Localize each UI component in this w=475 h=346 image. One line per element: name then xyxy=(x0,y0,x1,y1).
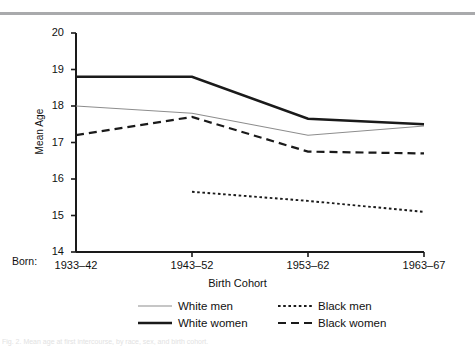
figure-caption: Fig. 2. Mean age at first intercourse, b… xyxy=(2,337,473,346)
y-tick-label: 18 xyxy=(42,100,64,111)
legend-swatch-icon xyxy=(278,317,312,329)
legend-swatch-icon xyxy=(138,300,172,312)
legend-swatch-icon xyxy=(138,317,172,329)
x-tick-label: 1953–62 xyxy=(287,260,330,271)
x-axis-prefix-label: Born: xyxy=(12,256,37,267)
legend-label: Black men xyxy=(318,300,372,312)
legend-label: White men xyxy=(178,300,233,312)
y-tick-label: 19 xyxy=(42,64,64,75)
y-tick-label: 14 xyxy=(42,246,64,257)
x-tick-label: 1963–67 xyxy=(403,260,446,271)
legend-item: White women xyxy=(138,317,248,329)
legend-label: Black women xyxy=(318,317,386,329)
series-line xyxy=(76,77,424,124)
chart-figure: Mean Age 14151617181920 Born: 1933–42194… xyxy=(0,0,475,346)
legend-label: White women xyxy=(178,317,248,329)
legend-swatch-icon xyxy=(278,300,312,312)
y-tick-label: 16 xyxy=(42,173,64,184)
chart-axes xyxy=(71,33,424,257)
x-tick-label: 1933–42 xyxy=(55,260,98,271)
legend-item: Black women xyxy=(278,317,386,329)
legend-item: Black men xyxy=(278,300,372,312)
chart-series-lines xyxy=(76,77,424,212)
x-axis-title: Birth Cohort xyxy=(0,277,475,289)
line-chart-plot xyxy=(0,0,475,346)
series-line xyxy=(192,192,424,212)
x-tick-label: 1943–52 xyxy=(171,260,214,271)
chart-legend: White menWhite womenBlack menBlack women xyxy=(0,300,475,336)
legend-item: White men xyxy=(138,300,233,312)
y-tick-label: 17 xyxy=(42,137,64,148)
y-tick-label: 20 xyxy=(42,27,64,38)
y-tick-label: 15 xyxy=(42,210,64,221)
